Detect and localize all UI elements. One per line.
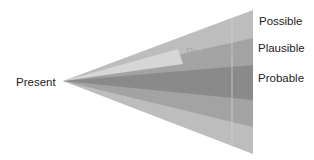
present-label: Present: [16, 77, 56, 89]
possible-label: Possible: [259, 16, 302, 28]
preferable-label: Preferable: [186, 47, 234, 58]
probable-label: Probable: [258, 73, 304, 85]
plausible-label: Plausible: [258, 43, 305, 55]
